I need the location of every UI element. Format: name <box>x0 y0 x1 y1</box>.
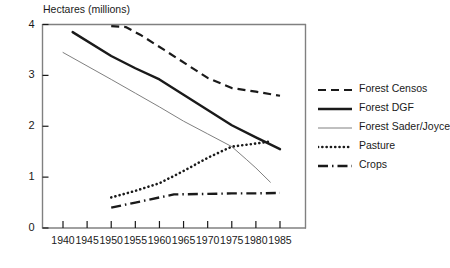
series-line <box>111 142 270 198</box>
legend-swatch-icon <box>318 139 352 151</box>
legend-item: Forest Censos <box>318 78 444 97</box>
y-axis-ticks <box>43 25 49 229</box>
legend-item: Forest DGF <box>318 97 444 116</box>
series-line <box>111 193 280 208</box>
legend-swatch-icon <box>318 158 352 170</box>
series-line <box>73 32 280 149</box>
legend-item-label: Crops <box>359 158 387 170</box>
series-line <box>63 52 270 182</box>
legend-item-label: Forest Sader/Joyce <box>359 120 450 132</box>
chart-axes <box>43 24 307 229</box>
x-axis-ticks <box>63 221 280 228</box>
y-tick-label: 3 <box>13 69 35 80</box>
legend-item-label: Forest DGF <box>359 101 414 113</box>
legend-item-label: Pasture <box>359 139 395 151</box>
y-tick-label: 4 <box>13 19 35 30</box>
legend-item: Forest Sader/Joyce <box>318 116 444 135</box>
legend-swatch-icon <box>318 101 352 113</box>
y-tick-label: 0 <box>13 222 35 233</box>
legend-swatch-icon <box>318 120 352 132</box>
series-line <box>111 26 280 96</box>
chart-series <box>63 26 280 208</box>
x-tick-label: 1985 <box>260 235 300 246</box>
legend-item: Crops <box>318 154 444 173</box>
y-tick-label: 2 <box>13 120 35 131</box>
legend-item: Pasture <box>318 135 444 154</box>
legend-swatch-icon <box>318 82 352 94</box>
y-tick-label: 1 <box>13 171 35 182</box>
legend-item-label: Forest Censos <box>359 82 427 94</box>
chart-legend: Forest CensosForest DGFForest Sader/Joyc… <box>318 78 444 173</box>
